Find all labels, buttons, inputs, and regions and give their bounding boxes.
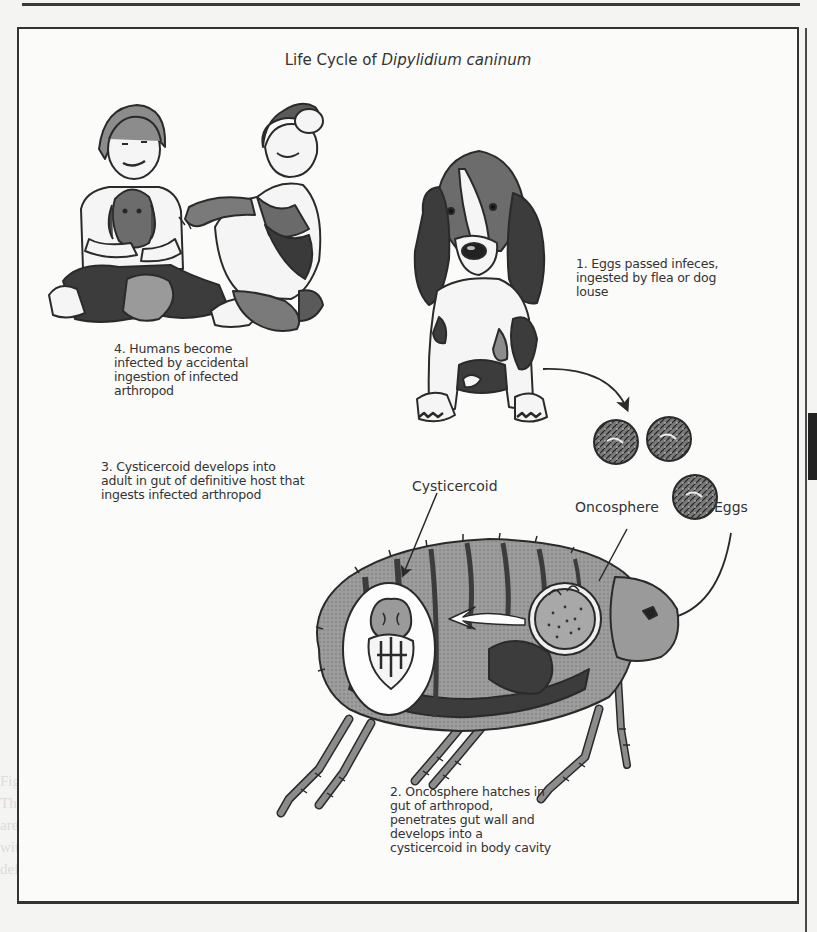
step-2-line: cysticercoid in body cavity [390,841,551,855]
oncosphere-cutaway [535,589,595,649]
oncosphere-callout: Oncosphere [575,499,659,515]
egg-icon [594,420,638,464]
step-3-line: 3. Cysticercoid develops into [101,460,304,474]
step-2-label: 2. Oncosphere hatches in gut of arthropo… [390,785,551,855]
step-3-line: adult in gut of definitive host that [101,474,304,488]
step-4-line: ingestion of infected [114,370,248,384]
page-side-rule [805,28,807,932]
step-4-line: infected by accidental [114,356,248,370]
page-thumb-tab [808,413,817,480]
cysticercoid-callout: Cysticercoid [412,478,498,494]
step-2-line: 2. Oncosphere hatches in [390,785,551,799]
step-1-line: 1. Eggs passed infeces, [576,257,718,271]
eggs-callout: Eggs [714,499,748,515]
step-2-line: penetrates gut wall and [390,813,551,827]
step-1-line: ingested by flea or dog [576,271,718,285]
step-4-label: 4. Humans become infected by accidental … [114,342,248,398]
eggs-to-flea-arrow [667,533,731,619]
step-4-line: 4. Humans become [114,342,248,356]
egg-icon [673,475,717,519]
figure-frame: Life Cycle of Dipylidium caninum [17,27,799,904]
step-3-line: ingests infected arthropod [101,488,304,502]
basset-hound-illustration [415,151,547,422]
children-with-puppy-illustration [49,104,323,331]
page-top-rule [22,3,800,6]
step-1-label: 1. Eggs passed infeces, ingested by flea… [576,257,718,299]
step-4-line: arthropod [114,384,248,398]
dog-to-eggs-arrow [543,369,627,409]
egg-icon [647,417,691,461]
step-3-label: 3. Cysticercoid develops into adult in g… [101,460,304,502]
step-2-line: gut of arthropod, [390,799,551,813]
flea-illustration [281,533,678,813]
step-2-line: develops into a [390,827,551,841]
step-1-line: louse [576,285,718,299]
